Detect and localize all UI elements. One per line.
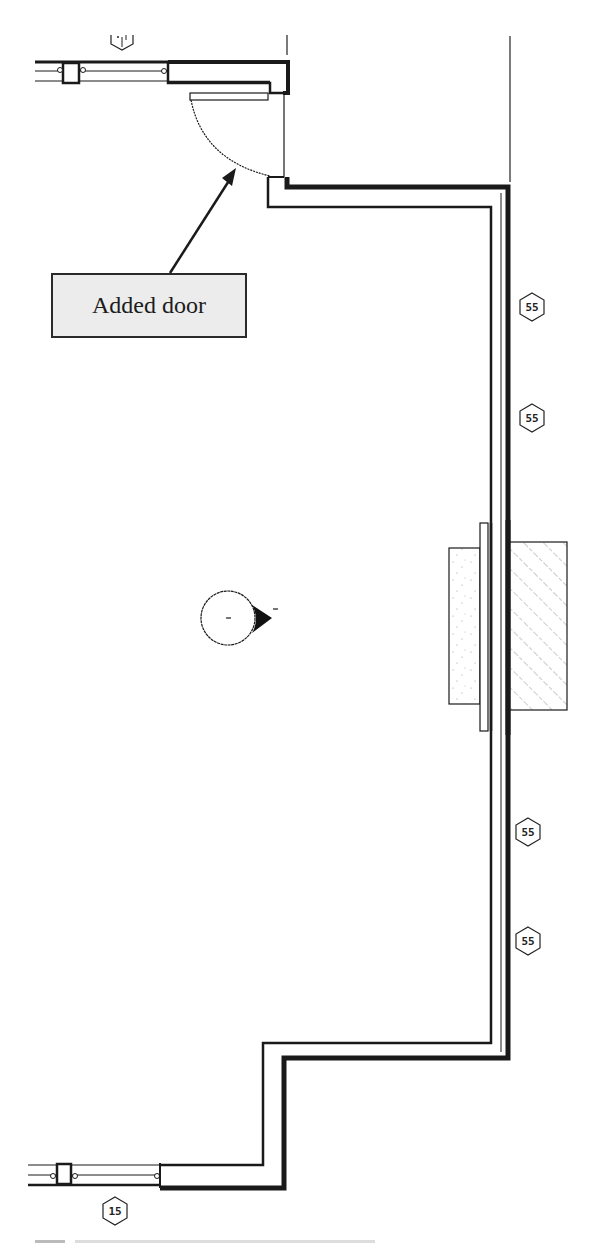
svg-text:55: 55 <box>525 412 538 425</box>
window-tag-bottom: 15 <box>103 1197 127 1225</box>
top-wall-stub <box>168 62 288 93</box>
door-leaf <box>190 93 268 100</box>
window-tag-top <box>111 35 133 50</box>
added-door-callout: Added door <box>51 273 247 338</box>
svg-text:55: 55 <box>525 301 538 314</box>
svg-text:15: 15 <box>108 1205 121 1218</box>
window-top <box>35 62 168 83</box>
door-swing-arc <box>191 100 270 176</box>
fireplace-hearth <box>449 548 480 704</box>
svg-text:55: 55 <box>521 826 534 839</box>
fireplace-surround <box>480 523 488 731</box>
floor-plan: 55 55 55 55 15 <box>0 0 596 1243</box>
svg-text:55: 55 <box>521 935 534 948</box>
fireplace-chimney <box>507 542 567 710</box>
wall-tag-3: 55 <box>516 818 540 846</box>
callout-arrow <box>170 168 236 273</box>
added-door <box>190 93 284 177</box>
elevation-marker <box>201 591 278 645</box>
wall-tag-1: 55 <box>520 293 544 321</box>
fireplace <box>449 520 567 735</box>
window-bottom <box>28 1163 160 1188</box>
wall-tag-4: 55 <box>516 927 540 955</box>
callout-label: Added door <box>92 292 206 319</box>
wall-tag-2: 55 <box>520 404 544 432</box>
